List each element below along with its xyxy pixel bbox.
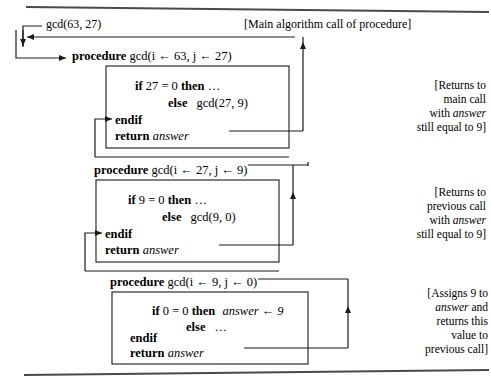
frame1-return-keyword: return	[115, 129, 150, 143]
frame1-endif-loop	[95, 119, 112, 157]
frame2-signature: gcd(i ← 27, j ← 9)	[152, 163, 248, 177]
frame1-annotation-line-1: [Returns to	[350, 78, 486, 92]
frame3-if-line: if 0 = 0 then answer ← 9	[152, 305, 284, 318]
main-call-hook	[23, 26, 42, 47]
frame3-annotation-italic: answer	[435, 301, 468, 313]
frame1-annotation-line-3: with answer	[350, 106, 486, 120]
frame3-annotation-line-4: value to	[368, 328, 488, 342]
rule-bottom	[24, 370, 489, 375]
frame3-procedure-line: procedure gcd(i ← 9, j ← 0)	[110, 276, 257, 289]
frame3-annotation-line-2: answer and	[368, 300, 488, 314]
frame3-else-line: else …	[186, 321, 227, 334]
frame1-else-line: else gcd(27, 9)	[168, 97, 248, 110]
frame2-return-keyword: return	[105, 243, 140, 257]
frame2-then-keyword: then	[168, 193, 192, 207]
frame1-annotation: [Returns to main call with answer still …	[350, 78, 486, 134]
frame2-annotation-italic: answer	[453, 214, 486, 226]
frame1-if-line: if 27 = 0 then …	[135, 80, 220, 93]
frame2-annotation-line-2: previous call	[350, 199, 486, 213]
frame1-if-keyword: if	[135, 79, 143, 93]
frame2-if-line: if 9 = 0 then …	[128, 194, 207, 207]
frame3-if-keyword: if	[152, 304, 160, 318]
frame1-then-keyword: then	[181, 79, 205, 93]
frame2-annotation-line-4: still equal to 9]	[350, 227, 486, 241]
frame3-return-value: answer	[168, 346, 204, 360]
frame3-annotation-line-3: returns this	[368, 314, 488, 328]
frame3-signature: gcd(i ← 9, j ← 0)	[168, 275, 258, 289]
frame2-if-condition: 9 = 0	[139, 193, 165, 207]
frame3-else-keyword: else	[186, 320, 205, 334]
frame2-endif-keyword: endif	[105, 228, 132, 241]
frame3-then-body: answer ← 9	[218, 304, 283, 318]
frame2-annotation-line-3: with answer	[350, 213, 486, 227]
frame2-procedure-keyword: procedure	[94, 163, 148, 177]
frame1-return-line-text: return answer	[115, 130, 189, 143]
frame3-else-body: …	[209, 320, 228, 334]
frame1-else-body: gcd(27, 9)	[191, 96, 248, 110]
frame3-then-keyword: then	[192, 304, 216, 318]
frame3-annotation: [Assigns 9 to answer and returns this va…	[368, 286, 488, 356]
frame2-endif-loop	[85, 233, 102, 271]
frame3-procedure-keyword: procedure	[110, 275, 164, 289]
frame3-annotation-line-1: [Assigns 9 to	[368, 286, 488, 300]
frame3-if-condition: 0 = 0	[163, 304, 189, 318]
frame2-procedure-line: procedure gcd(i ← 27, j ← 9)	[94, 164, 247, 177]
frame2-return-value: answer	[143, 243, 179, 257]
frame3-annotation-line-5: previous call]	[368, 342, 488, 356]
frame1-procedure-line: procedure gcd(i ← 63, j ← 27)	[72, 50, 232, 63]
frame2-else-keyword: else	[162, 210, 181, 224]
main-call-label: gcd(63, 27)	[46, 18, 101, 31]
frame1-if-condition: 27 = 0	[146, 79, 178, 93]
frame3-return-line-text: return answer	[130, 347, 204, 360]
frame3-return-keyword: return	[130, 346, 165, 360]
frame3-endif-keyword: endif	[130, 332, 157, 345]
frame1-endif-keyword: endif	[115, 114, 142, 127]
frame2-then-body: …	[194, 193, 207, 207]
frame1-return-value: answer	[153, 129, 189, 143]
rule-top	[26, 7, 489, 12]
frame1-signature: gcd(i ← 63, j ← 27)	[130, 49, 232, 63]
frame2-if-keyword: if	[128, 193, 136, 207]
frame1-then-body: …	[208, 79, 221, 93]
frame1-else-keyword: else	[168, 96, 187, 110]
frame1-annotation-line-2: main call	[350, 92, 486, 106]
frame2-annotation-line-1: [Returns to	[350, 185, 486, 199]
frame2-annotation: [Returns to previous call with answer st…	[350, 185, 486, 241]
frame1-entry-arrow	[16, 30, 66, 58]
frame2-else-line: else gcd(9, 0)	[162, 211, 236, 224]
frame1-annotation-line-4: still equal to 9]	[350, 120, 486, 134]
frame1-annotation-italic: answer	[453, 107, 486, 119]
frame2-else-body: gcd(9, 0)	[185, 210, 236, 224]
figure-canvas: gcd(63, 27) [Main algorithm call of proc…	[0, 0, 491, 385]
frame2-return-line-text: return answer	[105, 244, 179, 257]
main-call-annotation: [Main algorithm call of procedure]	[244, 18, 411, 31]
frame1-procedure-keyword: procedure	[72, 49, 126, 63]
